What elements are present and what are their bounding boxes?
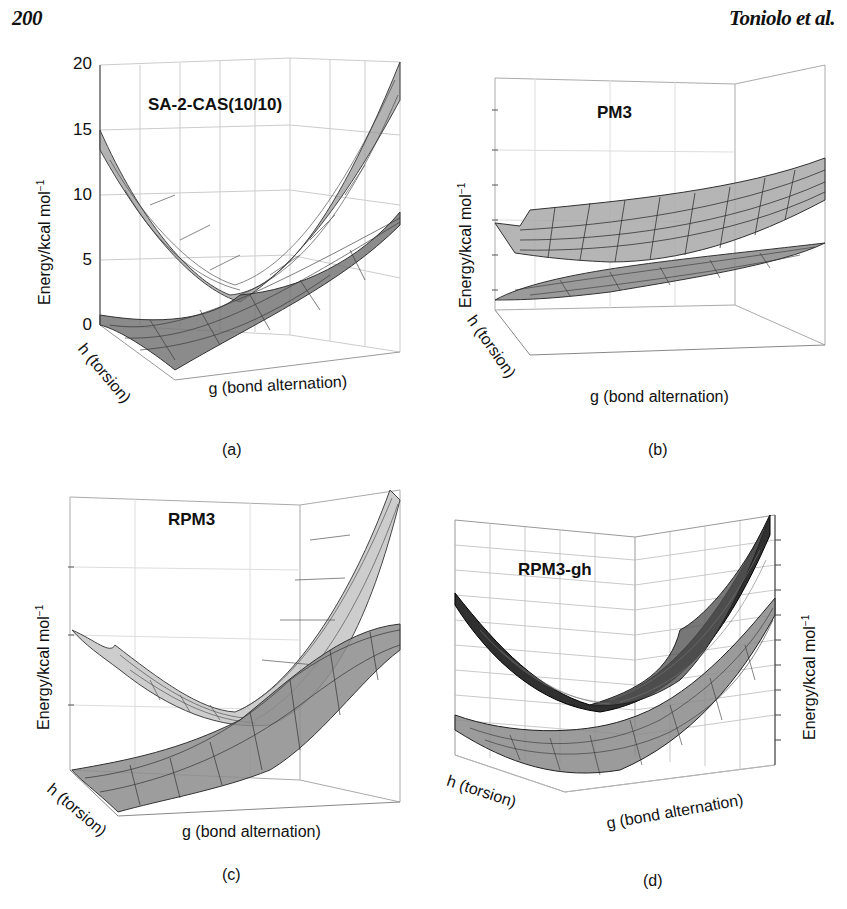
panel-title-b: PM3	[597, 103, 632, 123]
g-axis-label-c: g (bond alternation)	[182, 823, 321, 841]
y-axis-label-a: Energy/kcal mol−1	[35, 180, 54, 305]
y-axis-label-b: Energy/kcal mol−1	[456, 183, 475, 308]
panel-d: RPM3-gh Energy/kcal mol−1 h (torsion) g …	[430, 480, 847, 860]
ytick-10: 10	[62, 185, 92, 205]
panel-a: 20 15 10 5 0 SA-2-CAS(10/10) Energy/kcal…	[0, 40, 420, 440]
panel-title-c: RPM3	[168, 510, 215, 530]
caption-a: (a)	[222, 441, 242, 459]
surface-plot-b	[430, 40, 847, 440]
panel-title-d: RPM3-gh	[518, 560, 592, 580]
y-axis-label-c: Energy/kcal mol−1	[34, 605, 53, 730]
y-axis-label-d: Energy/kcal mol−1	[800, 615, 819, 740]
panel-title-a: SA-2-CAS(10/10)	[148, 95, 282, 115]
caption-c: (c)	[222, 866, 241, 884]
panel-b: PM3 Energy/kcal mol−1 h (torsion) g (bon…	[430, 40, 847, 440]
ytick-5: 5	[62, 250, 92, 270]
panel-c: RPM3 Energy/kcal mol−1 h (torsion) g (bo…	[0, 480, 420, 860]
running-head: Toniolo et al.	[729, 6, 835, 31]
ytick-15: 15	[62, 120, 92, 140]
ytick-20: 20	[62, 54, 92, 74]
g-axis-label-b: g (bond alternation)	[590, 388, 729, 406]
ytick-0: 0	[62, 315, 92, 335]
page-number: 200	[12, 6, 42, 31]
caption-b: (b)	[648, 441, 668, 459]
caption-d: (d)	[643, 872, 663, 890]
